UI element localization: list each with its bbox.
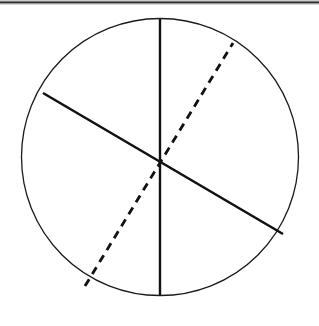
figure-canvas: A circle crossed by three diameters thro… bbox=[0, 0, 319, 326]
solid-diagonal-diameter bbox=[43, 93, 283, 234]
circle-sectors-figure bbox=[0, 0, 319, 326]
top-border-rule-group bbox=[0, 1, 319, 4]
